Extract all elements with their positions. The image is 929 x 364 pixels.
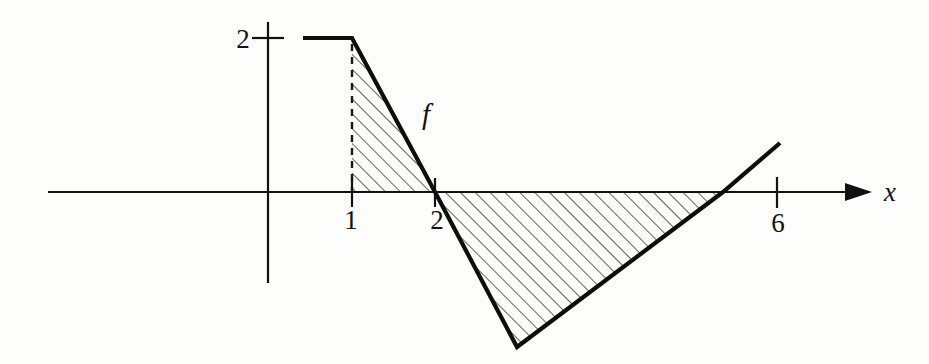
function-graph-figure: 2 1 2 6 x f [0, 0, 929, 364]
curve-label-f: f [422, 98, 434, 130]
x-axis-tick-label-1: 1 [344, 205, 358, 235]
x-axis-label: x [883, 177, 896, 207]
figure-container: 2 1 2 6 x f [0, 0, 929, 364]
x-axis-tick-label-2: 2 [430, 205, 444, 235]
y-axis-tick-label-2: 2 [236, 24, 250, 54]
x-axis-tick-label-6: 6 [771, 208, 785, 238]
x-axis-arrow-icon [845, 183, 872, 201]
tick-marks [252, 38, 777, 208]
